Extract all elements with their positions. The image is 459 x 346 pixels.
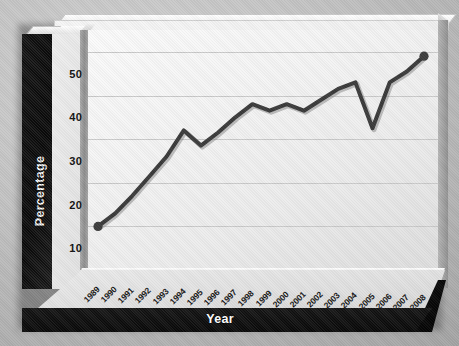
x-axis-title: Year (160, 312, 280, 326)
x-axis-tick-labels: 1989199019911992199319941995199619971998… (10, 8, 450, 338)
chart-poster: Percentage 01020304050 19891990199119921… (0, 0, 459, 346)
chart-3d-block: Percentage 01020304050 19891990199119921… (10, 8, 450, 338)
